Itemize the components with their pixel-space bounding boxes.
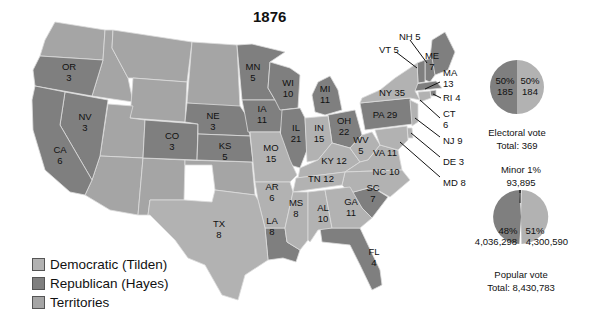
- minor-label: Minor 1%: [466, 163, 576, 176]
- svg-text:48%: 48%: [498, 225, 518, 236]
- legend-label: Republican (Hayes): [50, 276, 169, 291]
- svg-text:PA 29: PA 29: [373, 109, 398, 120]
- electoral-vote-pie: 50% 185 50% 184: [490, 60, 544, 114]
- svg-text:TN 12: TN 12: [308, 173, 334, 184]
- legend-label: Territories: [50, 295, 109, 310]
- legend-item-territories: Territories: [32, 293, 169, 312]
- svg-text:51%: 51%: [525, 225, 545, 236]
- minor-caption: Minor 1% 93,895: [466, 163, 576, 189]
- svg-text:DE 3: DE 3: [443, 156, 464, 167]
- svg-text:IL21: IL21: [291, 122, 302, 144]
- svg-text:NJ 9: NJ 9: [443, 135, 463, 146]
- electoral-vote-total: Total: 369: [462, 139, 572, 152]
- svg-text:MA13: MA13: [443, 67, 458, 89]
- svg-text:IA11: IA11: [257, 103, 267, 125]
- svg-text:4,300,590: 4,300,590: [526, 236, 568, 247]
- territories-swatch: [32, 296, 45, 309]
- svg-text:IN15: IN15: [314, 122, 325, 144]
- svg-text:NC 10: NC 10: [373, 166, 400, 177]
- legend: Democratic (Tilden) Republican (Hayes) T…: [32, 255, 169, 312]
- popular-vote-label: Popular vote: [466, 268, 576, 281]
- svg-text:4,036,298: 4,036,298: [475, 236, 517, 247]
- popular-vote-caption: Popular vote Total: 8,430,783: [466, 268, 576, 294]
- svg-text:VA 11: VA 11: [373, 147, 397, 158]
- svg-text:VT 5: VT 5: [379, 44, 399, 55]
- svg-text:AL10: AL10: [317, 202, 329, 224]
- electoral-vote-caption: Electoral vote Total: 369: [462, 126, 572, 152]
- minor-value: 93,895: [466, 176, 576, 189]
- svg-text:RI 4: RI 4: [443, 92, 460, 103]
- popular-vote-total: Total: 8,430,783: [466, 281, 576, 294]
- electoral-vote-label: Electoral vote: [462, 126, 572, 139]
- svg-text:WI10: WI10: [282, 77, 294, 99]
- svg-text:MD 8: MD 8: [443, 177, 466, 188]
- svg-text:NY 35: NY 35: [379, 87, 405, 98]
- legend-label: Democratic (Tilden): [50, 257, 167, 272]
- svg-text:CT6: CT6: [443, 108, 456, 130]
- territory-indian: [185, 160, 255, 195]
- svg-text:184: 184: [522, 86, 538, 97]
- svg-text:KY 12: KY 12: [321, 155, 347, 166]
- svg-text:50%: 50%: [495, 75, 515, 86]
- republican-swatch: [32, 277, 45, 290]
- svg-text:NH 5: NH 5: [399, 31, 421, 42]
- democratic-swatch: [32, 258, 45, 271]
- svg-text:MI11: MI11: [320, 83, 331, 105]
- territory-wyoming: [130, 78, 187, 122]
- legend-item-democratic: Democratic (Tilden): [32, 255, 169, 274]
- territory-dakota: [187, 42, 240, 108]
- svg-text:50%: 50%: [520, 75, 540, 86]
- svg-text:185: 185: [497, 86, 513, 97]
- popular-vote-pie: 48% 4,036,298 51% 4,300,590: [475, 190, 568, 247]
- svg-text:OH22: OH22: [337, 115, 351, 137]
- legend-item-republican: Republican (Hayes): [32, 274, 169, 293]
- territory-washington: [40, 22, 105, 60]
